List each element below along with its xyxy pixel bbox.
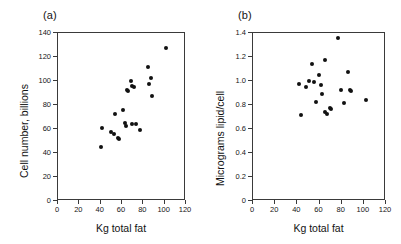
panel-b-x-axis-title: Kg total fat [252,222,385,234]
x-tick-label: 120 [179,205,192,214]
y-tick [53,128,57,129]
data-point [317,73,321,77]
x-tick-label: 0 [55,205,59,214]
y-tick-label: 140 [23,28,51,37]
panel-a: (a) 020406080100120140020406080100120 Ce… [0,0,200,244]
data-point [323,58,327,62]
y-tick [53,32,57,33]
data-point [117,137,121,141]
y-tick-label: 120 [23,52,51,61]
data-point [349,89,353,93]
data-point [112,132,116,136]
x-tick-label: 40 [95,205,103,214]
x-tick-label: 40 [292,205,300,214]
data-point [129,79,133,83]
y-tick [53,80,57,81]
data-point [329,107,333,111]
x-tick [252,200,253,204]
y-tick [248,56,252,57]
data-point [99,145,103,149]
y-tick [248,104,252,105]
y-tick [53,104,57,105]
y-tick-label: 1.4 [218,28,246,37]
x-tick [385,200,386,204]
data-point [149,76,153,80]
y-tick [53,152,57,153]
panel-a-x-axis-title: Kg total fat [57,222,185,234]
x-tick [57,200,58,204]
x-tick-label: 100 [157,205,170,214]
y-tick [248,128,252,129]
data-point [342,101,346,105]
y-tick-label: 1.2 [218,52,246,61]
y-tick [248,80,252,81]
data-point [299,113,303,117]
data-point [150,94,154,98]
x-tick [341,200,342,204]
data-point [307,79,311,83]
x-tick-label: 0 [250,205,254,214]
data-point [314,100,318,104]
x-tick-label: 60 [117,205,125,214]
y-tick-label: 0 [23,196,51,205]
data-point [113,112,117,116]
x-tick [100,200,101,204]
data-point [100,126,104,130]
x-tick [319,200,320,204]
data-point [146,65,150,69]
data-point [132,85,136,89]
panel-a-y-axis-title: Cell number, billions [18,84,30,178]
x-tick-label: 60 [314,205,322,214]
y-tick-label: 0 [218,196,246,205]
x-tick-label: 120 [379,205,392,214]
panel-a-plot-area [57,32,185,200]
x-tick-label: 20 [270,205,278,214]
data-point [164,46,168,50]
y-tick [53,176,57,177]
data-point [124,124,128,128]
y-tick-label: 1.0 [218,76,246,85]
data-point [297,82,301,86]
panel-b-label: (b) [238,9,252,21]
panel-b: (b) 00.20.40.60.81.01.21.402040608010012… [200,0,400,244]
x-tick [274,200,275,204]
data-point [319,83,323,87]
panel-b-plot-area [252,32,385,200]
x-tick-label: 80 [138,205,146,214]
x-tick [296,200,297,204]
x-tick [142,200,143,204]
y-tick [248,176,252,177]
x-tick-label: 80 [336,205,344,214]
x-tick [185,200,186,204]
data-point [147,82,151,86]
x-tick-label: 20 [74,205,82,214]
data-point [339,88,343,92]
scatter-figure: (a) 020406080100120140020406080100120 Ce… [0,0,401,244]
x-tick [363,200,364,204]
panel-b-y-axis-title: Micrograms lipid/cell [214,91,226,186]
y-tick [248,32,252,33]
x-tick [164,200,165,204]
x-tick [121,200,122,204]
x-tick [78,200,79,204]
panel-a-label: (a) [43,9,57,21]
x-tick-label: 100 [357,205,370,214]
y-tick [53,56,57,57]
y-tick [248,152,252,153]
